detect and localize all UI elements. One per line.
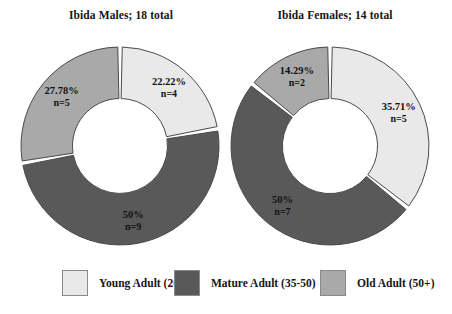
donut-chart-females: 35.71%n=550%n=714.29%n=2 [228,44,432,248]
chart-legend: Young Adult (20-35) Mature Adult (35-50)… [0,262,452,314]
svg-text:n=5: n=5 [391,113,407,124]
males-label-mature-adult: 50%n=9 [123,209,144,232]
svg-text:50%: 50% [272,194,293,205]
svg-text:n=9: n=9 [125,221,141,232]
donut-chart-females-svg: 35.71%n=550%n=714.29%n=2 [228,44,432,248]
chart-title-females: Ibida Females; 14 total [218,9,452,21]
females-label-mature-adult: 50%n=7 [272,194,293,217]
legend-swatch-old-adult [320,270,346,296]
females-slice-young-adult [331,47,429,206]
legend-label-mature-adult: Mature Adult (35-50) [211,277,316,289]
figure-two-donut-charts: Ibida Males; 18 total Ibida Females; 14 … [0,0,452,314]
legend-item-old-adult: Old Adult (50+) [320,270,435,296]
svg-text:n=2: n=2 [289,77,305,88]
svg-text:50%: 50% [123,209,144,220]
svg-text:27.78%: 27.78% [45,85,79,96]
svg-text:14.29%: 14.29% [280,65,314,76]
legend-label-old-adult: Old Adult (50+) [357,277,435,289]
donut-chart-males-svg: 22.22%n=450%n=927.78%n=5 [18,44,222,248]
svg-text:22.22%: 22.22% [152,76,186,87]
legend-swatch-mature-adult [174,270,200,296]
males-slice-old-adult [21,47,119,161]
legend-item-mature-adult: Mature Adult (35-50) [174,270,316,296]
svg-text:n=4: n=4 [161,88,177,99]
svg-text:35.71%: 35.71% [382,101,416,112]
donut-chart-males: 22.22%n=450%n=927.78%n=5 [18,44,222,248]
svg-text:n=7: n=7 [274,206,290,217]
svg-text:n=5: n=5 [53,97,69,108]
legend-swatch-young-adult [62,270,88,296]
chart-title-males: Ibida Males; 18 total [0,9,242,21]
